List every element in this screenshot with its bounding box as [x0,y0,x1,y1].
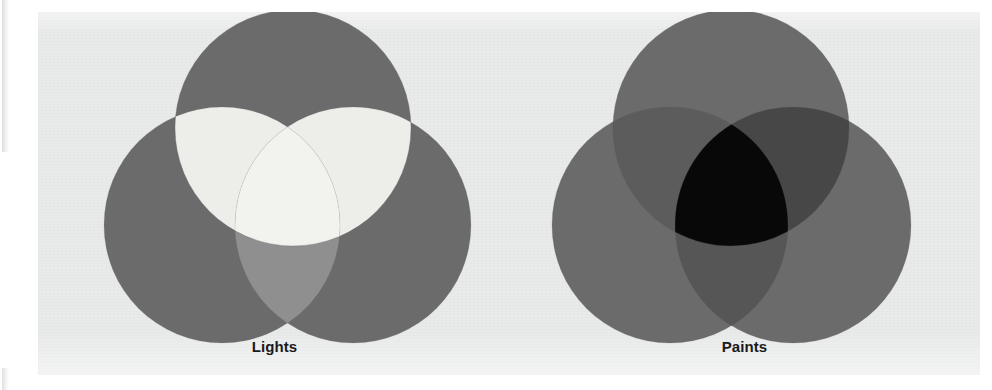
caption-lights: Lights [38,338,510,356]
venn-diagram-paints: Paints [509,12,980,375]
caption-paints: Paints [509,338,980,356]
venn-diagram-lights: Lights [38,12,509,375]
scan-edge-artifact-top [2,0,9,152]
scan-edge-artifact-bottom [2,368,9,390]
lights-venn-graphic [38,12,509,375]
figure-root: Lights [0,0,992,390]
paints-venn-graphic [509,12,980,375]
